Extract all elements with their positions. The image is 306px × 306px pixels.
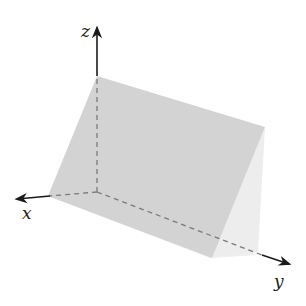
x-axis xyxy=(17,196,50,199)
z-axis-label: z xyxy=(80,21,91,41)
y-axis-label: y xyxy=(273,271,284,291)
x-axis-label: x xyxy=(22,203,32,223)
y-axis xyxy=(262,255,289,264)
3d-plane-diagram: z x y xyxy=(0,0,306,306)
